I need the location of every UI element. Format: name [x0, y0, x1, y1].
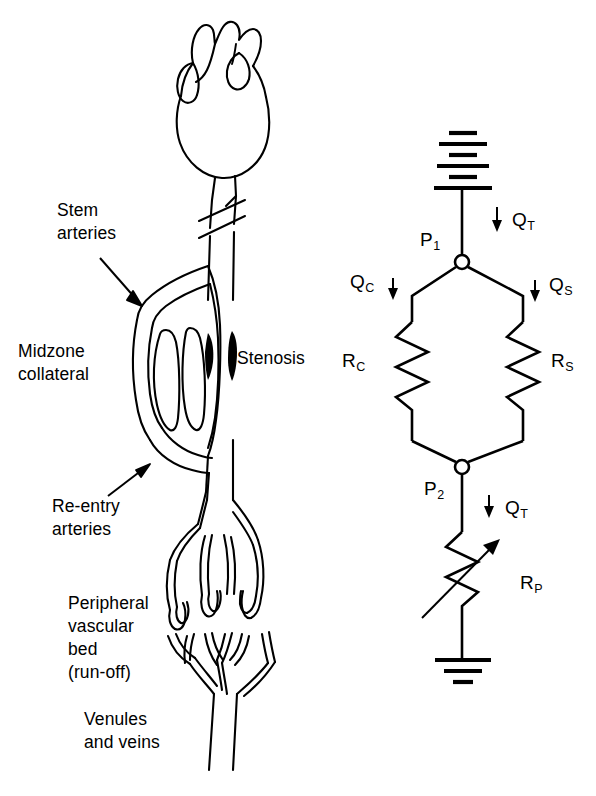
label-node-p2: P2: [424, 478, 444, 500]
flow-arrow-qc: [388, 278, 398, 300]
node-p2: [455, 460, 469, 474]
vessel-break-marks: [199, 200, 245, 238]
resistor-rp: [446, 532, 478, 660]
label-flow-qc: QC: [350, 271, 374, 293]
label-stenosis: Stenosis: [237, 347, 305, 370]
label-flow-qs: QS: [549, 274, 572, 296]
stem-arteries-arrow: [100, 258, 142, 306]
earth-ground: [435, 660, 491, 682]
flow-arrow-qt-bottom: [484, 495, 494, 518]
flow-arrow-qt-top: [492, 207, 502, 232]
label-node-p1: P1: [420, 229, 440, 251]
re-entry-arteries: [198, 440, 233, 528]
label-resistor-rc: RC: [342, 350, 365, 372]
label-re-entry-arteries: Re-entry arteries: [52, 495, 120, 541]
label-resistor-rc-text: R: [342, 350, 356, 371]
label-flow-qc-text: Q: [350, 271, 365, 292]
label-resistor-rp-sub: P: [534, 582, 542, 596]
label-flow-qt-bottom-text: Q: [505, 497, 520, 518]
label-stem-arteries: Stem arteries: [57, 199, 116, 245]
label-node-p2-sub: 2: [437, 488, 444, 502]
label-resistor-rc-sub: C: [356, 360, 365, 374]
peripheral-vascular-bed: [167, 500, 275, 696]
label-flow-qs-sub: S: [564, 284, 572, 298]
label-resistor-rs: RS: [551, 350, 573, 372]
label-flow-qt-top-text: Q: [512, 209, 527, 230]
wire-p1-to-rc: [412, 267, 456, 322]
label-flow-qt-bottom: QT: [505, 497, 527, 519]
resistor-rs: [507, 322, 539, 441]
label-venules-and-veins: Venules and veins: [84, 708, 160, 754]
label-flow-qt-top: QT: [512, 209, 534, 231]
wire-p1-to-rs: [468, 267, 523, 322]
label-resistor-rs-text: R: [551, 350, 565, 371]
resistor-rc: [396, 322, 428, 441]
label-flow-qc-sub: C: [365, 281, 374, 295]
label-resistor-rp-text: R: [520, 572, 534, 593]
label-peripheral-vascular-bed: Peripheral vascular bed (run-off): [68, 592, 149, 684]
heart-outline: [177, 22, 270, 206]
figure-canvas: Stem arteries Midzone collateral Stenosi…: [0, 0, 596, 796]
label-node-p1-sub: 1: [433, 239, 440, 253]
label-resistor-rs-sub: S: [565, 360, 573, 374]
battery-cell-stack: [434, 133, 492, 188]
label-flow-qt-top-sub: T: [527, 219, 535, 233]
wire-rc-to-p2: [412, 441, 456, 462]
label-midzone-collateral: Midzone collateral: [18, 340, 89, 386]
label-resistor-rp: RP: [520, 572, 542, 594]
label-flow-qt-bottom-sub: T: [520, 507, 528, 521]
re-entry-arteries-arrow: [108, 464, 150, 496]
label-node-p2-text: P: [424, 478, 437, 499]
flow-arrow-qs: [530, 280, 540, 302]
label-node-p1-text: P: [420, 229, 433, 250]
label-flow-qs-text: Q: [549, 274, 564, 295]
venous-trunk: [209, 694, 237, 770]
node-p1: [455, 255, 469, 269]
wire-rs-to-p2: [468, 441, 523, 462]
